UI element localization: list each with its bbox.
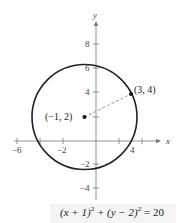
y-tick-label: −4 bbox=[80, 183, 90, 193]
coordinate-plane: −6 −2 4 8 6 4 −2 −4 x y (−1, 2) (3, 4) bbox=[0, 0, 178, 223]
x-tick-label: 4 bbox=[130, 145, 135, 155]
x-tick-label: −6 bbox=[12, 145, 22, 155]
circle-equation: (x + 1)2 + (y − 2)2 = 20 bbox=[60, 205, 164, 218]
point-label: (3, 4) bbox=[134, 84, 156, 96]
x-tick-label: −2 bbox=[57, 145, 67, 155]
y-tick-label: 4 bbox=[85, 87, 90, 97]
y-tick-label: 8 bbox=[85, 39, 90, 49]
center-point bbox=[83, 115, 87, 119]
center-label: (−1, 2) bbox=[45, 111, 72, 123]
y-axis-label: y bbox=[92, 10, 97, 20]
x-axis-label: x bbox=[165, 136, 170, 146]
y-tick-label: −2 bbox=[80, 159, 90, 169]
point-3-4 bbox=[129, 92, 133, 96]
radius-line bbox=[85, 94, 132, 117]
